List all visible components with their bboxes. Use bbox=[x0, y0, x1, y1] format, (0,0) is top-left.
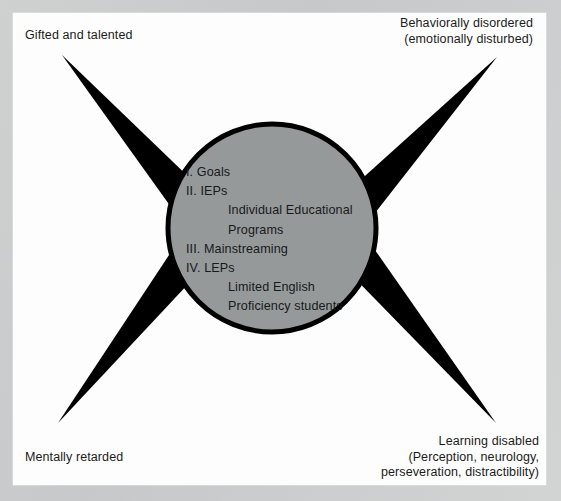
label-gifted-and-talented: Gifted and talented bbox=[25, 28, 133, 44]
outline-item: II. IEPs bbox=[186, 182, 386, 201]
figure-page: I. Goals II. IEPs Individual Educational… bbox=[0, 0, 561, 501]
outline-item: I. Goals bbox=[186, 163, 386, 182]
label-behaviorally-disordered: Behaviorally disordered (emotionally dis… bbox=[400, 16, 533, 47]
outline-item: Limited English bbox=[186, 278, 386, 297]
label-learning-disabled: Learning disabled (Perception, neurology… bbox=[381, 434, 539, 481]
outline-item: Individual Educational bbox=[186, 201, 386, 220]
outline-item: Proficiency students bbox=[186, 297, 386, 316]
outline-item: Programs bbox=[186, 221, 386, 240]
center-outline-list: I. Goals II. IEPs Individual Educational… bbox=[186, 163, 386, 317]
outline-item: III. Mainstreaming bbox=[186, 240, 386, 259]
outline-item: IV. LEPs bbox=[186, 259, 386, 278]
label-mentally-retarded: Mentally retarded bbox=[25, 450, 123, 466]
